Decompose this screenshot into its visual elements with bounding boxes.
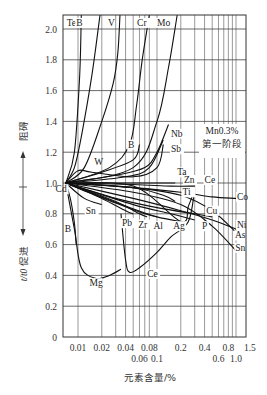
curve-label-ni: Ni bbox=[237, 220, 247, 230]
promote-label: 促进 bbox=[18, 246, 29, 266]
x-tick-label: 0.01 bbox=[70, 343, 87, 353]
y-axis-ticks: 00.20.40.60.81.01.21.41.61.82.0 bbox=[45, 25, 57, 343]
chart: TeBVCrMoBNbSbWTaZnCeCoTiCuNiAsSnPAgAlZrP… bbox=[0, 0, 267, 395]
hinder-label: 阻碍 bbox=[18, 121, 29, 141]
curve-label-sn: Sn bbox=[235, 243, 245, 253]
curve-label-al: Al bbox=[153, 221, 163, 231]
curve-label-ce: Ce bbox=[205, 175, 216, 185]
y-tick-label: 1.2 bbox=[45, 148, 57, 158]
x-tick-label: 0.4 bbox=[199, 343, 211, 353]
y-tick-label: 0.6 bbox=[45, 240, 57, 250]
y-tick-label: 0.4 bbox=[45, 271, 57, 281]
curve-label-cd: Cd bbox=[56, 184, 67, 194]
annotation-box: Mn0.3% 第一阶段 bbox=[199, 124, 245, 158]
annotation-mn: Mn0.3% bbox=[206, 126, 239, 136]
curve-label-b: B bbox=[65, 224, 71, 234]
x-tick-label: 0.02 bbox=[93, 343, 110, 353]
curve-label-w: W bbox=[94, 157, 103, 167]
x-tick-label: 0.8 bbox=[222, 343, 234, 353]
curve-label-ti: Ti bbox=[182, 187, 190, 197]
curve-label-mg: Mg bbox=[90, 278, 103, 288]
y-tick-label: 0.2 bbox=[45, 302, 57, 312]
curve-label-te: Te bbox=[67, 18, 76, 28]
curve-label-pb: Pb bbox=[122, 218, 132, 228]
curve-label-ag: Ag bbox=[173, 221, 185, 231]
y-axis-title: t/t0 bbox=[19, 268, 29, 281]
curve-label-as: As bbox=[235, 230, 246, 240]
y-tick-label: 0.8 bbox=[45, 209, 57, 219]
curve-label-v: V bbox=[108, 18, 115, 28]
direction-indicator: 阻碍 促进 bbox=[18, 121, 29, 266]
curve-label-b: B bbox=[76, 18, 82, 28]
curve-label-nb: Nb bbox=[171, 129, 183, 139]
curve-label-sn: Sn bbox=[86, 206, 96, 216]
x-tick-label: 0.04 bbox=[117, 343, 134, 353]
curve-label-zn: Zn bbox=[184, 175, 195, 185]
curve-label-mo: Mo bbox=[157, 18, 170, 28]
y-tick-label: 0 bbox=[52, 333, 57, 343]
x-tick-label: 1.0 bbox=[230, 354, 242, 364]
curve-label-cu: Cu bbox=[206, 206, 217, 216]
y-tick-label: 1.8 bbox=[45, 55, 57, 65]
arrow-up-icon bbox=[21, 151, 26, 158]
curve-label-p: P bbox=[202, 221, 207, 231]
curve-label-ce: Ce bbox=[147, 269, 158, 279]
x-axis-ticks: 0.010.020.040.080.20.40.81.50.060.10.61.… bbox=[70, 343, 256, 364]
y-tick-label: 1.6 bbox=[45, 86, 57, 96]
x-tick-label: 0.6 bbox=[213, 354, 225, 364]
curve-label-cr: Cr bbox=[137, 18, 147, 28]
y-tick-label: 2.0 bbox=[45, 25, 57, 35]
curve-te bbox=[66, 15, 82, 183]
arrow-down-icon bbox=[21, 229, 26, 236]
x-tick-label: 0.1 bbox=[151, 354, 163, 364]
x-axis-title: 元素含量/% bbox=[124, 372, 176, 383]
x-tick-label: 0.06 bbox=[131, 354, 148, 364]
y-tick-label: 1.0 bbox=[45, 179, 57, 189]
annotation-stage: 第一阶段 bbox=[202, 138, 242, 149]
x-tick-label: 0.2 bbox=[175, 343, 187, 353]
y-tick-label: 1.4 bbox=[45, 117, 57, 127]
curve-label-co: Co bbox=[237, 192, 248, 202]
curve-label-sb: Sb bbox=[171, 144, 181, 154]
curve-label-zr: Zr bbox=[138, 220, 148, 230]
x-tick-label: 0.08 bbox=[141, 343, 158, 353]
x-tick-label: 1.5 bbox=[244, 343, 256, 353]
curve-label-b: B bbox=[128, 140, 134, 150]
